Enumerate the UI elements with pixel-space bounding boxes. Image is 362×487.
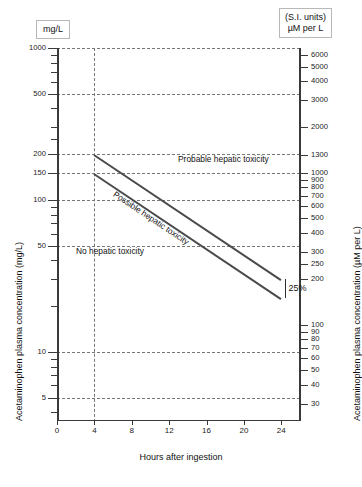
tick-right	[300, 279, 308, 280]
left-axis-title: Acetaminophen plasma concentration (mg/L…	[14, 242, 24, 421]
tick-label-left: 500	[33, 90, 46, 98]
tick-label-right: 400	[311, 229, 324, 237]
tick-right	[300, 81, 308, 82]
tick-right	[300, 358, 308, 359]
tick-right	[300, 100, 308, 101]
tick-label-right: 70	[311, 344, 319, 352]
tick-label-left: 50	[38, 242, 46, 250]
si-units-line1: (S.I. units)	[285, 12, 326, 23]
percent-bracket	[285, 279, 286, 298]
left-units-label: mg/L	[43, 24, 63, 34]
tick-right	[300, 233, 308, 234]
tick-right	[300, 187, 308, 188]
tick-label-right: 700	[311, 192, 324, 200]
tick-label-left: 150	[33, 169, 46, 177]
tick-label-left: 100	[33, 196, 46, 204]
tick-label-right: 2000	[311, 123, 328, 131]
percent-label: 25%	[289, 283, 307, 293]
tick-left	[48, 398, 57, 399]
tick-label-right: 600	[311, 202, 324, 210]
tick-right	[300, 370, 308, 371]
tick-right	[300, 196, 308, 197]
tick-label-left: 1000	[29, 44, 46, 52]
gridline-v	[94, 48, 95, 422]
tick-label-right: 5000	[311, 63, 328, 71]
tick-label-x: 12	[157, 427, 181, 435]
tick-right	[300, 404, 308, 405]
tick-right	[300, 173, 308, 174]
nomogram-figure: mg/L (S.I. units) µM per L Acetaminophen…	[0, 0, 362, 487]
right-axis-line	[299, 48, 301, 421]
x-axis-title: Hours after ingestion	[0, 452, 362, 462]
tick-right	[300, 264, 308, 265]
tick-label-right: 200	[311, 275, 324, 283]
tick-label-right: 300	[311, 248, 324, 256]
tick-label-right: 250	[311, 260, 324, 268]
tick-left	[48, 200, 57, 201]
tick-right	[300, 218, 308, 219]
no-toxicity-label: No hepatic toxicity	[76, 246, 144, 256]
left-axis-line	[57, 48, 59, 421]
tick-left	[48, 94, 57, 95]
probable-toxicity-label: Probable hepatic toxicity	[178, 154, 269, 164]
tick-label-right: 800	[311, 183, 324, 191]
tick-right	[300, 67, 308, 68]
right-axis-title: Acetaminophen plasma concentration (µM p…	[352, 226, 362, 421]
tick-left	[48, 246, 57, 247]
x-axis-line	[57, 420, 301, 421]
tick-label-right: 30	[311, 400, 319, 408]
tick-right	[300, 252, 308, 253]
tick-right	[300, 206, 308, 207]
possible-toxicity-label: Possible hepatic toxicity	[111, 189, 190, 247]
tick-left	[48, 173, 57, 174]
si-units-line2: µM per L	[285, 23, 326, 34]
tick-label-x: 0	[45, 427, 69, 435]
tick-label-x: 20	[232, 427, 256, 435]
tick-label-right: 6000	[311, 51, 328, 59]
tick-right	[300, 155, 308, 156]
tick-right	[300, 325, 308, 326]
tick-label-x: 8	[120, 427, 144, 435]
tick-label-left: 10	[38, 348, 46, 356]
tick-label-right: 4000	[311, 77, 328, 85]
tick-label-left: 200	[33, 150, 46, 158]
tick-right	[300, 180, 308, 181]
tick-right	[300, 348, 308, 349]
tick-left	[48, 48, 57, 49]
tick-right	[300, 55, 308, 56]
left-units-box: mg/L	[36, 20, 70, 39]
tick-left	[48, 352, 57, 353]
right-units-box: (S.I. units) µM per L	[279, 8, 332, 38]
tick-right	[300, 127, 308, 128]
tick-label-right: 80	[311, 335, 319, 343]
tick-label-right: 40	[311, 381, 319, 389]
tick-label-x: 24	[269, 427, 293, 435]
tick-right	[300, 332, 308, 333]
tick-label-x: 4	[82, 427, 106, 435]
tick-label-right: 1300	[311, 151, 328, 159]
tick-label-right: 500	[311, 214, 324, 222]
tick-right	[300, 385, 308, 386]
tick-label-left: 5	[42, 394, 46, 402]
tick-left	[48, 154, 57, 155]
tick-label-right: 60	[311, 354, 319, 362]
tick-label-x: 16	[195, 427, 219, 435]
tick-label-right: 3000	[311, 96, 328, 104]
tick-label-right: 50	[311, 366, 319, 374]
tick-right	[300, 339, 308, 340]
